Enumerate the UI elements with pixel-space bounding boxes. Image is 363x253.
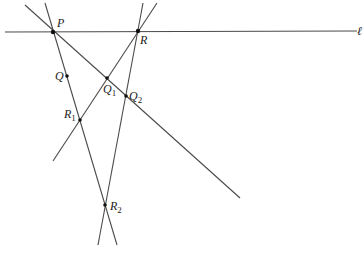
point-q: [65, 74, 69, 78]
point-r2: [103, 203, 107, 207]
line-p-q-r1-r2: [45, 3, 117, 245]
label-r2: R2: [109, 199, 122, 215]
label-r1: R1: [63, 107, 76, 123]
point-q2: [124, 94, 128, 98]
point-p: [51, 30, 55, 34]
label-q2: Q2: [129, 89, 142, 105]
point-q1: [105, 76, 109, 80]
geometry-diagram: ℓ P R Q Q1 Q2 R1 R2: [0, 0, 363, 253]
point-r1: [78, 118, 82, 122]
label-r: R: [139, 33, 148, 47]
label-q: Q: [55, 69, 64, 83]
line-l: [5, 31, 357, 32]
label-p: P: [56, 16, 65, 30]
label-l: ℓ: [357, 24, 362, 38]
